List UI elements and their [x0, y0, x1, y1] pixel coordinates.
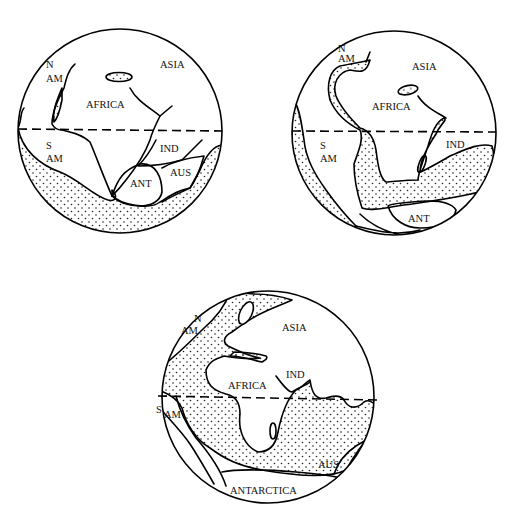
globe-2: N AM ASIA AFRICA S AM IND ANT: [292, 31, 496, 240]
globe-1-tethys: [106, 73, 132, 82]
globe-3-label-antarctica: ANTARCTICA: [230, 485, 297, 496]
globe-2-equator: [292, 131, 496, 132]
globe-3: N AM ASIA AFRICA IND S AM AUS ANTARCTICA: [156, 291, 380, 503]
globe-3-label-asia: ASIA: [282, 322, 307, 333]
globe-3-label-sam: AM: [164, 409, 182, 420]
globe-1-label-s: S: [46, 140, 52, 151]
globe-2-label-s: S: [320, 140, 326, 151]
globe-1-label-ind: IND: [160, 143, 179, 154]
globe-1-label-aus: AUS: [170, 167, 191, 178]
globe-1-label-asia: ASIA: [160, 59, 185, 70]
globe-2-label-ind: IND: [446, 139, 465, 150]
globe-3-label-africa: AFRICA: [228, 380, 267, 391]
globe-3-label-n: N: [194, 313, 202, 324]
globe-2-label-sam: AM: [320, 153, 338, 164]
globe-1: N AM ASIA AFRICA S AM IND ANT AUS: [18, 29, 222, 240]
globe-1-label-ant: ANT: [130, 178, 152, 189]
paleogeography-figure: N AM ASIA AFRICA S AM IND ANT AUS N AM A…: [0, 0, 508, 513]
globe-3-label-am: AM: [181, 325, 199, 336]
globe-2-label-asia: ASIA: [412, 61, 437, 72]
globe-1-label-n: N: [46, 59, 54, 70]
globe-1-label-am: AM: [46, 73, 64, 84]
globe-2-label-ant: ANT: [408, 213, 430, 224]
globe-2-label-africa: AFRICA: [372, 101, 411, 112]
globe-1-label-sam: AM: [46, 153, 64, 164]
globe-2-label-am: AM: [338, 53, 356, 64]
globe-3-label-ind: IND: [286, 369, 305, 380]
globe-3-label-s: S: [156, 404, 162, 415]
globe-3-label-aus: AUS: [318, 459, 339, 470]
globe-1-label-africa: AFRICA: [86, 99, 125, 110]
